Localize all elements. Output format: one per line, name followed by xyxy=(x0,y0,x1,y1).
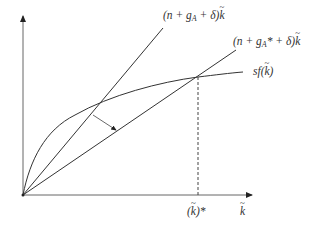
label-text: * + δ) xyxy=(267,35,295,47)
label-var: k xyxy=(191,206,196,218)
x-axis-label: k xyxy=(240,206,245,218)
label-text: )* xyxy=(196,205,206,217)
label-var: k xyxy=(240,206,245,218)
label-text: + δ) xyxy=(197,9,220,21)
origin-dot xyxy=(22,194,25,197)
label-var: k xyxy=(265,66,270,78)
label-text: sf( xyxy=(253,65,265,77)
label-var: k xyxy=(219,10,224,22)
steep-line-label: (n + gA + δ)k xyxy=(163,10,225,23)
label-text: ) xyxy=(270,65,274,77)
flat-line-label: (n + gA* + δ)k xyxy=(233,36,300,49)
label-var: k xyxy=(295,36,300,48)
label-text: (n + g xyxy=(163,9,192,21)
production-curve xyxy=(23,72,243,195)
flat-breakeven-line xyxy=(23,50,236,195)
steady-state-label: (k)* xyxy=(187,206,206,218)
label-text: (n + g xyxy=(233,35,262,47)
production-curve-label: sf(k) xyxy=(253,66,273,78)
shift-arrow xyxy=(93,115,116,130)
steep-breakeven-line xyxy=(23,28,163,195)
